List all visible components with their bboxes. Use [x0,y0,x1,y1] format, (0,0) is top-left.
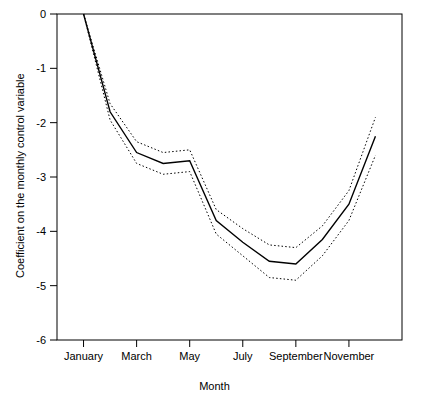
x-tick-label: March [121,350,152,362]
y-tick-label: -6 [36,334,46,346]
x-axis-ticks: JanuaryMarchMayJulySeptemberNovember [64,340,375,362]
data-series-line [84,14,376,280]
y-tick-label: -5 [36,280,46,292]
x-tick-label: May [179,350,200,362]
y-tick-label: -4 [36,225,46,237]
series-layer [84,14,376,280]
plot-frame [57,14,402,340]
y-tick-label: -2 [36,117,46,129]
y-axis-ticks: 0-1-2-3-4-5-6 [36,8,57,346]
x-axis-title: Month [0,380,429,392]
y-axis-title: Coefficient on the monthly control varia… [14,78,26,278]
x-tick-label: July [233,350,253,362]
y-tick-label: -1 [36,62,46,74]
x-tick-label: September [269,350,323,362]
x-tick-label: January [64,350,104,362]
x-tick-label: November [324,350,375,362]
chart-container: 0-1-2-3-4-5-6 JanuaryMarchMayJulySeptemb… [0,0,429,404]
data-series-line [84,14,376,264]
y-tick-label: 0 [40,8,46,20]
line-chart-plot: 0-1-2-3-4-5-6 JanuaryMarchMayJulySeptemb… [0,0,429,404]
y-tick-label: -3 [36,171,46,183]
data-series-line [84,14,376,248]
